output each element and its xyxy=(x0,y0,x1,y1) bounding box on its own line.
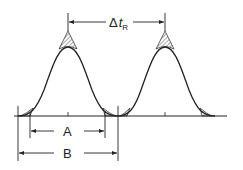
delta-tr-label: ΔtR xyxy=(109,15,128,32)
b-label: B xyxy=(63,146,72,161)
peak-curve-2 xyxy=(118,47,215,116)
arrowhead-left-icon xyxy=(69,20,74,24)
arrowhead-right-icon xyxy=(99,129,104,133)
a-label: A xyxy=(63,124,72,139)
peak-diagram: ΔtR A B xyxy=(0,0,243,170)
arrowhead-left-icon xyxy=(31,129,36,133)
arrowhead-left-icon xyxy=(19,151,24,155)
arrowhead-right-icon xyxy=(112,151,117,155)
arrowhead-right-icon xyxy=(159,20,164,24)
hatched-apex-peak-2 xyxy=(156,31,174,49)
peak-curve-1 xyxy=(18,47,118,116)
hatched-apex-peak-1 xyxy=(59,31,77,49)
